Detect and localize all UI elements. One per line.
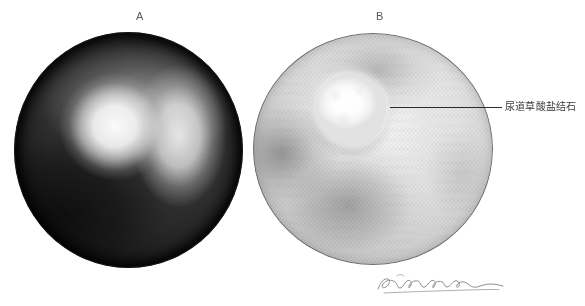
panel-a-label: A (125, 10, 155, 22)
panel-a-vignette-rim (14, 32, 243, 268)
signature-icon (375, 272, 505, 296)
panel-b-label: B (365, 10, 395, 22)
panel-b-image (253, 33, 493, 265)
panel-b-outline-rim (253, 33, 493, 265)
panel-a-image (14, 32, 243, 268)
figure-page: A B 尿道草酸盐结石 (0, 0, 585, 306)
annotation-label-oxalate-calculus: 尿道草酸盐结石 (505, 100, 576, 114)
artist-signature (375, 272, 505, 296)
annotation-leader-line (390, 107, 502, 108)
